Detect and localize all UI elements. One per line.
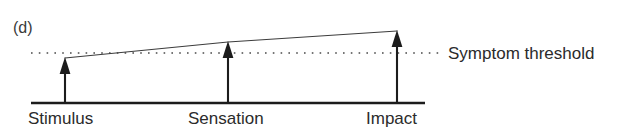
figure-panel-d: (d) Stimulus Sensation Impact Symptom th…	[0, 0, 632, 137]
symptom-threshold-label: Symptom threshold	[448, 44, 594, 63]
panel-label: (d)	[13, 19, 33, 36]
symptom-threshold-diagram: (d) Stimulus Sensation Impact Symptom th…	[0, 0, 632, 137]
arrow-impact	[392, 30, 403, 103]
arrow-head-impact	[392, 30, 403, 47]
arrow-sensation	[223, 41, 234, 103]
arrow-head-stimulus	[60, 57, 71, 74]
arrow-stimulus	[60, 57, 71, 103]
arrow-head-sensation	[223, 41, 234, 58]
axis-label-impact: Impact	[366, 109, 417, 128]
axis-label-stimulus: Stimulus	[28, 109, 93, 128]
axis-label-sensation: Sensation	[188, 109, 264, 128]
